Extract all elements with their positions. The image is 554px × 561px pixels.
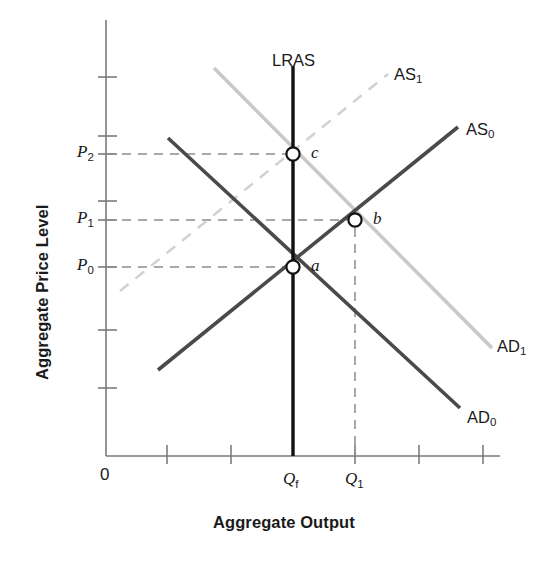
point-marker-c [286, 147, 299, 160]
guide-lines [106, 154, 355, 456]
x-tick-marks [167, 445, 483, 464]
curve-label-as1-text: AS [394, 65, 416, 83]
curve-label-ad1: AD1 [497, 338, 526, 355]
curve-label-as1-sub: 1 [416, 73, 422, 85]
y-tick-marks [98, 77, 117, 388]
curve-ad1 [214, 68, 492, 348]
point-label-a: a [311, 257, 320, 274]
y-axis-title: Aggregate Price Level [34, 205, 51, 380]
x-tick-label-q1-text: Q [345, 469, 357, 488]
x-axis-title: Aggregate Output [213, 514, 355, 531]
x-tick-label-q1-sub: 1 [357, 478, 363, 490]
curve-label-ad0: AD0 [467, 409, 496, 426]
y-tick-label-p1-text: P [77, 208, 87, 227]
y-tick-label-p0: P0 [77, 256, 94, 273]
y-tick-label-p1-sub: 1 [87, 217, 93, 229]
y-tick-label-p2: P2 [77, 143, 94, 160]
curve-label-ad0-text: AD [467, 408, 490, 426]
curve-label-lras-text: LRAS [272, 51, 315, 69]
point-label-b: b [373, 210, 382, 227]
curve-label-lras: LRAS [272, 52, 315, 69]
point-marker-a [286, 260, 299, 273]
plot-canvas [0, 0, 554, 561]
curve-label-ad1-text: AD [497, 337, 520, 355]
y-tick-label-p0-text: P [77, 255, 87, 274]
x-tick-label-q1: Q1 [345, 470, 364, 487]
y-tick-label-p0-sub: 0 [87, 264, 93, 276]
curve-label-as0: AS0 [466, 121, 494, 138]
y-tick-label-p2-sub: 2 [87, 151, 93, 163]
x-tick-label-qf: Qf [283, 470, 298, 487]
point-marker-b [348, 213, 361, 226]
curve-label-ad1-sub: 1 [520, 345, 526, 357]
curve-label-as0-sub: 0 [488, 128, 494, 140]
y-tick-label-p2-text: P [77, 142, 87, 161]
point-label-c: c [311, 144, 319, 161]
curve-label-as0-text: AS [466, 120, 488, 138]
y-tick-label-p1: P1 [77, 209, 94, 226]
aggregate-supply-demand-diagram: Aggregate Price Level Aggregate Output 0… [0, 0, 554, 561]
curve-label-as1: AS1 [394, 66, 422, 83]
origin-label: 0 [100, 466, 109, 483]
x-tick-label-qf-text: Q [283, 469, 295, 488]
curve-label-ad0-sub: 0 [490, 416, 496, 428]
